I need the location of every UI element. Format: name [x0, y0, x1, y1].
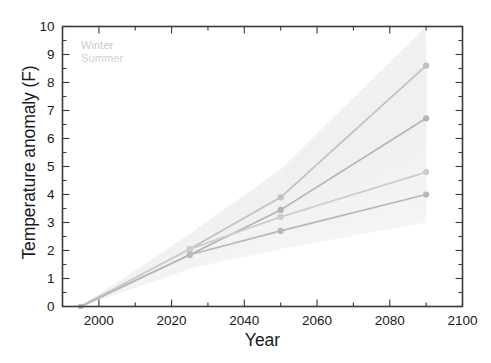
y-tick-label: 0: [27, 299, 55, 314]
temperature-anomaly-chart: 012345678910 200020202040206020802100 Te…: [0, 0, 491, 363]
uncertainty-bands: [81, 27, 426, 307]
x-tick-label: 2020: [148, 313, 196, 328]
legend-item-summer: Summer: [81, 52, 123, 64]
x-tick-label: 2080: [366, 313, 414, 328]
x-axis-title: Year: [62, 330, 463, 351]
x-tick-label: 2100: [439, 313, 487, 328]
x-tick-label: 2040: [220, 313, 268, 328]
x-tick-label: 2060: [293, 313, 341, 328]
y-tick-label: 10: [27, 19, 55, 34]
plot-area: [0, 0, 491, 363]
y-axis-title: Temperature anomaly (F): [19, 48, 40, 278]
legend-item-winter: Winter: [81, 39, 113, 51]
x-tick-label: 2000: [75, 313, 123, 328]
